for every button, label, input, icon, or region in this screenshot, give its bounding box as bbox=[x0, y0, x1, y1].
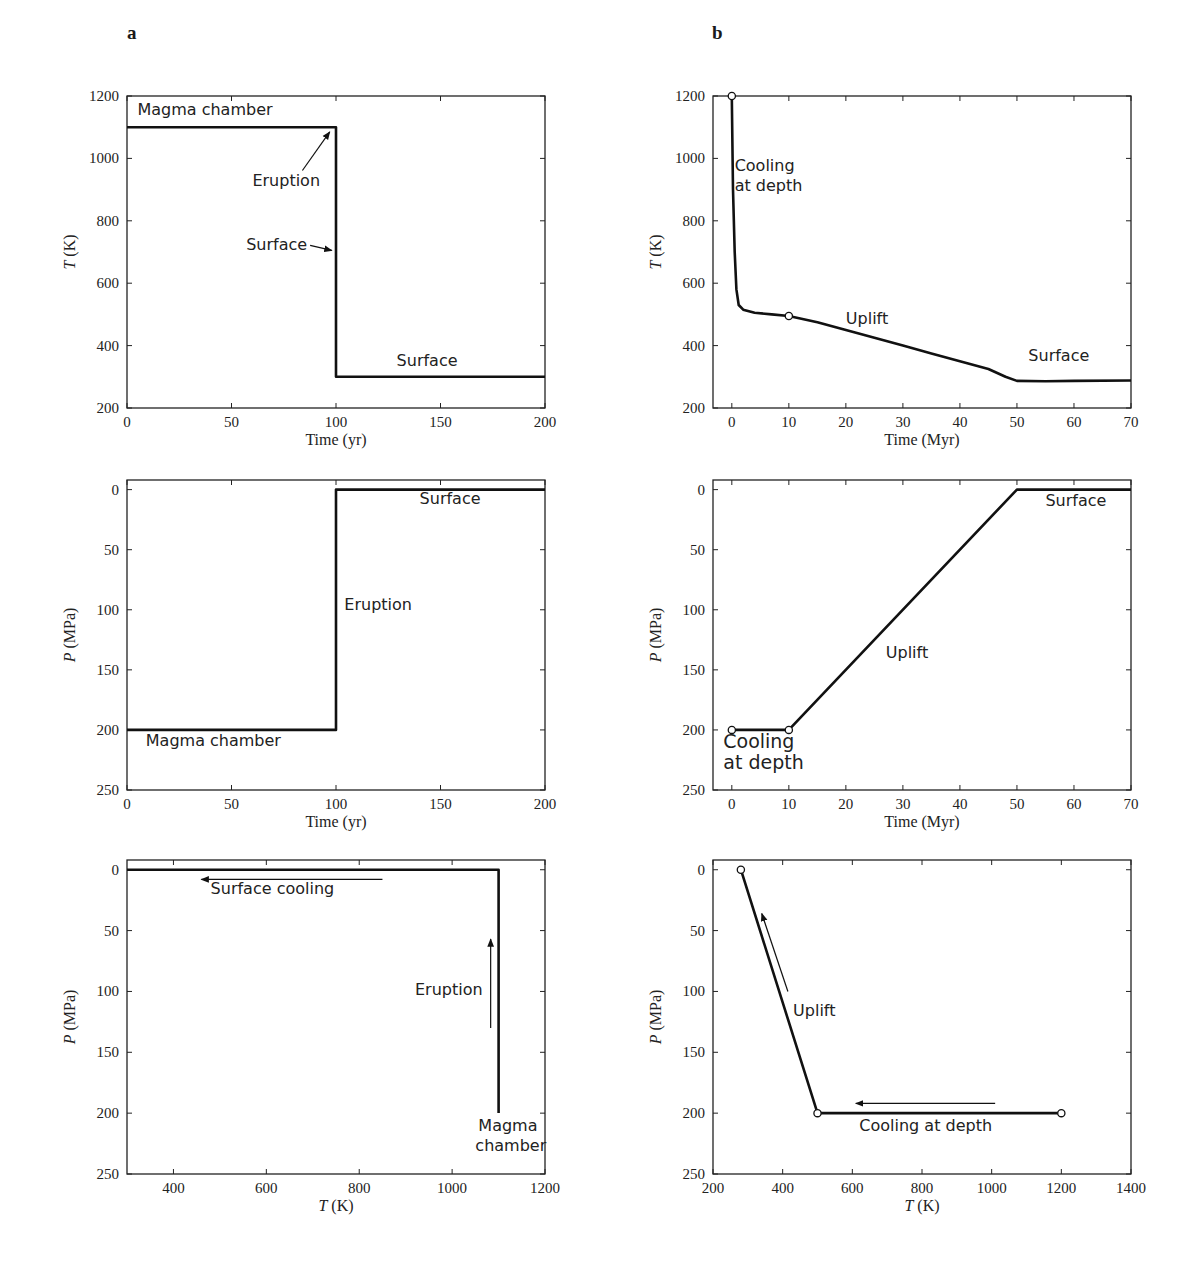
x-tick-label: 200 bbox=[702, 1180, 725, 1196]
data-point-marker bbox=[1058, 1110, 1065, 1117]
x-tick-label: 10 bbox=[781, 414, 796, 430]
x-axis-title: Time (yr) bbox=[305, 431, 366, 449]
y-axis-title: T (K) bbox=[647, 234, 665, 269]
x-tick-label: 50 bbox=[1009, 796, 1024, 812]
annotation-label: Eruption bbox=[415, 980, 483, 999]
y-tick-label: 0 bbox=[112, 482, 120, 498]
annotation-label: Surface bbox=[1028, 346, 1089, 365]
x-tick-label: 600 bbox=[255, 1180, 278, 1196]
data-point-marker bbox=[737, 866, 744, 873]
y-tick-label: 0 bbox=[112, 862, 120, 878]
y-tick-label: 800 bbox=[97, 213, 120, 229]
x-tick-label: 100 bbox=[325, 414, 348, 430]
y-tick-label: 250 bbox=[683, 1166, 706, 1182]
y-tick-label: 0 bbox=[698, 862, 706, 878]
data-point-marker bbox=[728, 92, 735, 99]
y-tick-label: 200 bbox=[97, 722, 120, 738]
y-tick-label: 800 bbox=[683, 213, 706, 229]
x-tick-label: 60 bbox=[1066, 414, 1081, 430]
annotation-label: Cooling at depth bbox=[859, 1116, 992, 1135]
x-tick-label: 30 bbox=[895, 796, 910, 812]
data-line bbox=[741, 870, 1061, 1113]
chart-b-bottom: 200400600800100012001400050100150200250T… bbox=[647, 860, 1146, 1215]
y-tick-label: 200 bbox=[97, 400, 120, 416]
x-tick-label: 10 bbox=[781, 796, 796, 812]
y-tick-label: 100 bbox=[683, 983, 706, 999]
annotation-label: Surface cooling bbox=[211, 879, 335, 898]
data-point-marker bbox=[814, 1110, 821, 1117]
x-tick-label: 70 bbox=[1124, 414, 1139, 430]
annotation-label: Coolingat depth bbox=[735, 156, 803, 195]
x-axis-title: Time (Myr) bbox=[884, 431, 959, 449]
x-tick-label: 40 bbox=[952, 414, 967, 430]
annotation-label: Magmachamber bbox=[475, 1116, 546, 1155]
x-tick-label: 50 bbox=[224, 796, 239, 812]
y-tick-label: 250 bbox=[683, 782, 706, 798]
data-line bbox=[127, 127, 545, 377]
annotation-label: Magma chamber bbox=[137, 100, 273, 119]
x-tick-label: 60 bbox=[1066, 796, 1081, 812]
annotation-label: Eruption bbox=[252, 171, 320, 190]
y-tick-label: 200 bbox=[683, 400, 706, 416]
annotation-label: Magma chamber bbox=[146, 731, 282, 750]
data-line bbox=[127, 490, 545, 730]
x-tick-label: 100 bbox=[325, 796, 348, 812]
x-tick-label: 1200 bbox=[530, 1180, 560, 1196]
x-tick-label: 50 bbox=[1009, 414, 1024, 430]
y-tick-label: 100 bbox=[97, 602, 120, 618]
x-tick-label: 1200 bbox=[1046, 1180, 1076, 1196]
x-tick-label: 150 bbox=[429, 414, 452, 430]
y-tick-label: 1200 bbox=[89, 88, 119, 104]
chart-a-top: 05010015020020040060080010001200Time (yr… bbox=[61, 88, 556, 449]
chart-b-top: 01020304050607020040060080010001200Time … bbox=[647, 88, 1139, 449]
y-tick-label: 50 bbox=[690, 923, 705, 939]
y-tick-label: 200 bbox=[97, 1105, 120, 1121]
y-tick-label: 200 bbox=[683, 722, 706, 738]
y-tick-label: 150 bbox=[683, 662, 706, 678]
y-tick-label: 50 bbox=[104, 923, 119, 939]
x-tick-label: 150 bbox=[429, 796, 452, 812]
x-tick-label: 40 bbox=[952, 796, 967, 812]
x-tick-label: 600 bbox=[841, 1180, 864, 1196]
x-tick-label: 1000 bbox=[437, 1180, 467, 1196]
y-axis-title: P (MPa) bbox=[61, 608, 79, 664]
y-tick-label: 600 bbox=[683, 275, 706, 291]
y-tick-label: 250 bbox=[97, 1166, 120, 1182]
y-tick-label: 150 bbox=[683, 1044, 706, 1060]
x-axis-title: T (K) bbox=[904, 1197, 939, 1215]
annotation-label: Coolingat depth bbox=[723, 730, 803, 773]
y-tick-label: 600 bbox=[97, 275, 120, 291]
y-tick-label: 0 bbox=[698, 482, 706, 498]
y-tick-label: 50 bbox=[690, 542, 705, 558]
x-tick-label: 70 bbox=[1124, 796, 1139, 812]
figure-canvas: 05010015020020040060080010001200Time (yr… bbox=[0, 0, 1196, 1277]
x-tick-label: 0 bbox=[123, 414, 131, 430]
y-axis-title: P (MPa) bbox=[647, 990, 665, 1046]
x-tick-label: 50 bbox=[224, 414, 239, 430]
x-tick-label: 200 bbox=[534, 414, 557, 430]
annotation-arrow bbox=[302, 132, 329, 171]
y-tick-label: 1200 bbox=[675, 88, 705, 104]
x-tick-label: 20 bbox=[838, 414, 853, 430]
y-tick-label: 1000 bbox=[89, 150, 119, 166]
annotation-label: Surface bbox=[397, 351, 458, 370]
x-tick-label: 0 bbox=[728, 414, 736, 430]
x-tick-label: 800 bbox=[348, 1180, 371, 1196]
annotation-label: Surface bbox=[1045, 491, 1106, 510]
annotation-label: Uplift bbox=[886, 643, 928, 662]
y-tick-label: 100 bbox=[97, 983, 120, 999]
y-axis-title: T (K) bbox=[61, 234, 79, 269]
x-tick-label: 200 bbox=[534, 796, 557, 812]
y-tick-label: 250 bbox=[97, 782, 120, 798]
x-axis-title: Time (yr) bbox=[305, 813, 366, 831]
annotation-label: Uplift bbox=[846, 309, 888, 328]
x-tick-label: 400 bbox=[162, 1180, 185, 1196]
chart-b-middle: 010203040506070050100150200250Time (Myr)… bbox=[647, 480, 1139, 831]
x-tick-label: 0 bbox=[123, 796, 131, 812]
x-tick-label: 1000 bbox=[977, 1180, 1007, 1196]
x-tick-label: 1400 bbox=[1116, 1180, 1146, 1196]
y-tick-label: 400 bbox=[97, 338, 120, 354]
y-tick-label: 150 bbox=[97, 662, 120, 678]
y-axis-title: P (MPa) bbox=[61, 990, 79, 1046]
annotation-label: Surface bbox=[246, 235, 307, 254]
